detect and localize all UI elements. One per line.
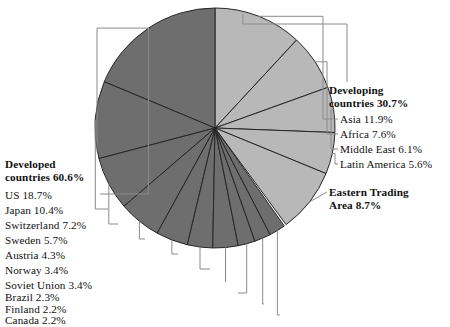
pie-slices-group xyxy=(95,8,335,248)
eastern-trading-area-heading: Eastern Trading Area 8.7% xyxy=(329,186,409,211)
label-africa: Africa 7.6% xyxy=(340,128,396,141)
eastern-trading-line2: Area 8.7% xyxy=(329,199,409,212)
developing-heading-line1: Developing xyxy=(329,84,383,96)
label-norway: Norway 3.4% xyxy=(5,264,68,277)
label-austria: Austria 4.3% xyxy=(5,249,65,262)
leader-soviet-union xyxy=(226,248,227,283)
label-latin-america: Latin America 5.6% xyxy=(340,158,432,171)
leader-canada xyxy=(277,231,280,316)
leader-latin-america xyxy=(332,153,338,164)
developed-heading-line1: Developed xyxy=(5,158,56,170)
developing-heading-line2: countries 30.7% xyxy=(329,97,408,110)
label-asia: Asia 11.9% xyxy=(340,113,393,126)
label-canada: Canada 2.2% xyxy=(5,314,66,327)
developing-countries-heading: Developing countries 30.7% xyxy=(329,84,408,109)
label-us: US 18.7% xyxy=(5,189,52,202)
label-switzerland: Switzerland 7.2% xyxy=(5,219,86,232)
leader-norway xyxy=(200,247,210,269)
leader-brazil xyxy=(238,244,247,293)
leader-finland xyxy=(263,238,264,304)
developed-countries-heading: Developed countries 60.6% xyxy=(5,158,84,183)
label-sweden: Sweden 5.7% xyxy=(5,234,68,247)
developed-heading-line2: countries 60.6% xyxy=(5,171,84,184)
label-japan: Japan 10.4% xyxy=(5,204,63,217)
eastern-trading-line1: Eastern Trading xyxy=(329,186,409,198)
label-middle-east: Middle East 6.1% xyxy=(340,143,422,156)
